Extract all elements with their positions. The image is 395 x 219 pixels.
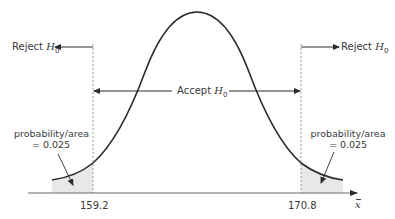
reject-right-label: Reject H0 (341, 41, 388, 54)
h-symbol: H (214, 85, 223, 96)
reject-left-text: Reject (12, 41, 46, 52)
right-tail-annotation: probability/area = 0.025 (309, 128, 387, 150)
accept-text: Accept (177, 85, 214, 96)
h-subscript: 0 (55, 47, 59, 55)
diagram-graphics (0, 0, 395, 219)
h-subscript: 0 (384, 47, 388, 55)
reject-right-text: Reject (341, 41, 375, 52)
right-tail-line1: probability/area (309, 128, 387, 139)
left-tail-line2: = 0.025 (14, 139, 88, 150)
hypothesis-test-diagram: Reject H0 Reject H0 Accept H0 probabilit… (0, 0, 395, 219)
h-symbol: H (46, 41, 55, 52)
right-tail-line2: = 0.025 (309, 139, 387, 150)
accept-label: Accept H0 (175, 85, 229, 98)
h-symbol: H (375, 41, 384, 52)
left-tail-annotation: probability/area = 0.025 (14, 128, 88, 150)
lower-critical-value: 159.2 (80, 200, 109, 211)
left-tail-line1: probability/area (14, 128, 88, 139)
reject-left-label: Reject H0 (12, 41, 59, 54)
h-subscript: 0 (223, 91, 227, 99)
upper-critical-value: 170.8 (288, 200, 317, 211)
axis-label: x (355, 199, 361, 210)
x-bar-symbol: x (355, 199, 361, 210)
